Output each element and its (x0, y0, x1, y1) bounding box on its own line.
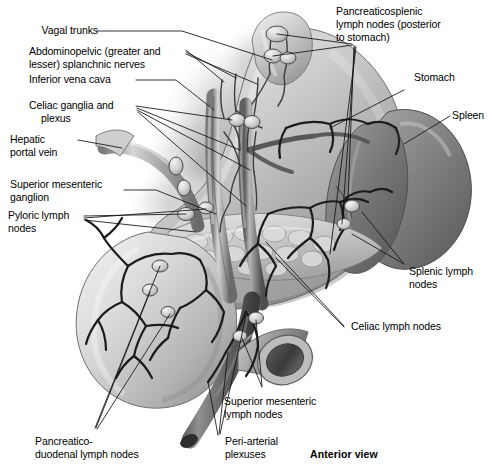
label-superior-mesenteric-lymph-nodes-line2: lymph nodes (224, 408, 282, 421)
label-pancreaticosplenic-lymph-nodes-line2: lymph nodes (posterior (336, 18, 441, 31)
label-hepatic-portal-vein-line2: portal vein (10, 146, 57, 159)
label-celiac-ganglia-and-plexus-line2: plexus (41, 112, 71, 125)
label-hepatic-portal-vein-line1: Hepatic (10, 133, 45, 146)
label-pancreaticosplenic-lymph-nodes-line1: Pancreaticosplenic (336, 5, 422, 18)
label-abdominopelvic-splanchnic-nerves-line1: Abdominopelvic (greater and (29, 45, 161, 58)
label-pyloric-lymph-nodes-line1: Pyloric lymph (8, 209, 69, 222)
label-pyloric-lymph-nodes-line2: nodes (8, 222, 36, 235)
label-peri-arterial-plexuses-line1: Peri-arterial (225, 435, 278, 448)
label-inferior-vena-cava: Inferior vena cava (29, 73, 111, 86)
label-pancreaticoduodenal-lymph-nodes-line1: Pancreatico- (35, 435, 93, 448)
label-pancreaticoduodenal-lymph-nodes-line2: duodenal lymph nodes (35, 448, 139, 461)
label-abdominopelvic-splanchnic-nerves-line2: lesser) splanchnic nerves (29, 58, 145, 71)
label-spleen: Spleen (452, 109, 484, 122)
label-superior-mesenteric-ganglion-line1: Superior mesenteric (10, 178, 102, 191)
label-vagal-trunks: Vagal trunks (6, 24, 98, 37)
anatomy-figure: Vagal trunks Abdominopelvic (greater and… (0, 0, 497, 469)
label-splenic-lymph-nodes-line2: nodes (409, 278, 437, 291)
label-stomach: Stomach (414, 71, 455, 84)
label-superior-mesenteric-lymph-nodes-line1: Superior mesenteric (224, 395, 316, 408)
label-peri-arterial-plexuses-line2: plexuses (225, 448, 266, 461)
label-celiac-lymph-nodes: Celiac lymph nodes (351, 320, 441, 333)
label-superior-mesenteric-ganglion-line2: ganglion (10, 191, 49, 204)
label-pancreaticosplenic-lymph-nodes-line3: to stomach) (336, 31, 390, 44)
duodenum-organ (76, 232, 236, 408)
label-celiac-ganglia-and-plexus-line1: Celiac ganglia and (29, 99, 114, 112)
label-splenic-lymph-nodes-line1: Splenic lymph (409, 265, 473, 278)
label-anterior-view: Anterior view (310, 448, 378, 461)
